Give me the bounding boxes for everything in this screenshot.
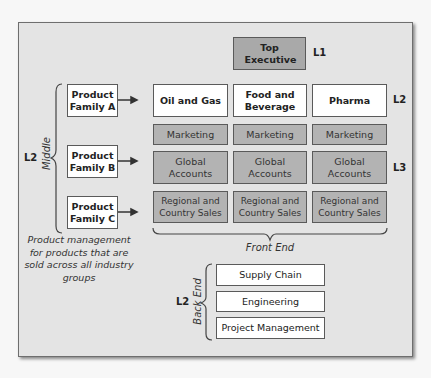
level-l1: L1	[313, 47, 326, 58]
project-management-box: Project Management	[216, 317, 325, 339]
middle-brace	[51, 84, 62, 233]
marketing-label: Marketing	[246, 129, 293, 141]
product-family-label: Product Family C	[70, 201, 116, 225]
level-l2-industry: L2	[393, 94, 406, 105]
product-family-c: Product Family C	[67, 196, 118, 229]
marketing-box: Marketing	[233, 124, 307, 145]
industry-label: Food and Beverage	[240, 89, 300, 113]
regional-sales-label: Regional and Country Sales	[234, 195, 306, 219]
global-accounts-label: Global Accounts	[163, 156, 218, 180]
marketing-box: Marketing	[153, 124, 228, 145]
top-executive-label: Top Executive	[245, 42, 295, 66]
back-end-label: Engineering	[242, 296, 299, 308]
back-end-label: Project Management	[221, 322, 319, 334]
supply-chain-box: Supply Chain	[216, 264, 325, 286]
regional-sales-box: Regional and Country Sales	[233, 191, 307, 223]
top-executive-box: Top Executive	[233, 37, 306, 70]
industry-pharma: Pharma	[312, 84, 387, 117]
back-end-label: Supply Chain	[239, 269, 302, 281]
product-family-label: Product Family B	[70, 150, 116, 174]
front-end-label: Front End	[240, 242, 300, 255]
industry-label: Pharma	[329, 95, 370, 107]
product-family-a: Product Family A	[67, 84, 118, 117]
middle-label: Middle	[41, 134, 52, 174]
regional-sales-box: Regional and Country Sales	[312, 191, 387, 223]
regional-sales-label: Regional and Country Sales	[155, 195, 227, 219]
industry-food-beverage: Food and Beverage	[233, 84, 307, 117]
global-accounts-label: Global Accounts	[322, 156, 377, 180]
global-accounts-box: Global Accounts	[233, 151, 307, 184]
product-management-note: Product management for products that are…	[20, 234, 138, 284]
front-end-brace	[153, 228, 387, 240]
product-family-b: Product Family B	[67, 145, 118, 178]
industry-label: Oil and Gas	[160, 95, 221, 107]
industry-oil-gas: Oil and Gas	[153, 84, 228, 117]
marketing-label: Marketing	[326, 129, 373, 141]
level-l2-middle: L2	[24, 152, 37, 163]
marketing-box: Marketing	[312, 124, 387, 145]
level-l3: L3	[393, 162, 406, 173]
global-accounts-label: Global Accounts	[243, 156, 298, 180]
global-accounts-box: Global Accounts	[312, 151, 387, 184]
level-l2-back-end: L2	[176, 296, 189, 307]
engineering-box: Engineering	[216, 291, 325, 312]
product-family-label: Product Family A	[70, 89, 116, 113]
back-end-label-vertical: Back End	[192, 277, 203, 327]
marketing-label: Marketing	[167, 129, 214, 141]
back-end-brace	[201, 264, 212, 340]
regional-sales-label: Regional and Country Sales	[314, 195, 386, 219]
regional-sales-box: Regional and Country Sales	[153, 191, 228, 223]
global-accounts-box: Global Accounts	[153, 151, 228, 184]
